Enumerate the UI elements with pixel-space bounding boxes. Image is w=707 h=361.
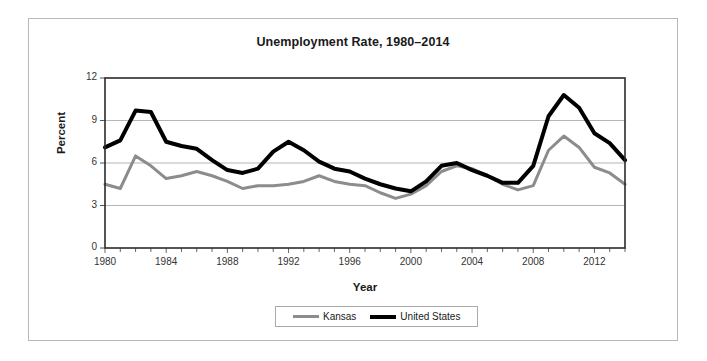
x-tick-label: 1992 bbox=[269, 256, 309, 267]
x-tick-label: 2004 bbox=[452, 256, 492, 267]
x-tick-label: 1980 bbox=[85, 256, 125, 267]
x-axis-title: Year bbox=[105, 281, 625, 293]
data-series bbox=[105, 95, 625, 198]
legend-item-united-states: United States bbox=[370, 311, 460, 322]
chart-legend: Kansas United States bbox=[275, 306, 478, 327]
x-tick-label: 1988 bbox=[207, 256, 247, 267]
axis-ticks bbox=[100, 78, 625, 253]
y-tick-label: 12 bbox=[71, 71, 97, 82]
legend-label-united-states: United States bbox=[400, 311, 460, 322]
gridlines bbox=[105, 121, 625, 206]
legend-line-swatch-kansas bbox=[293, 315, 319, 318]
plot-area bbox=[29, 19, 679, 342]
x-tick-label: 2000 bbox=[391, 256, 431, 267]
legend-item-kansas: Kansas bbox=[293, 311, 356, 322]
y-tick-label: 9 bbox=[71, 114, 97, 125]
y-tick-label: 6 bbox=[71, 156, 97, 167]
chart-figure-frame: Unemployment Rate, 1980–2014 Percent 036… bbox=[28, 18, 678, 341]
x-tick-label: 2012 bbox=[574, 256, 614, 267]
y-tick-label: 0 bbox=[71, 241, 97, 252]
legend-line-swatch-united-states bbox=[370, 315, 396, 319]
x-tick-label: 1996 bbox=[330, 256, 370, 267]
x-tick-label: 2008 bbox=[513, 256, 553, 267]
legend-label-kansas: Kansas bbox=[323, 311, 356, 322]
y-tick-label: 3 bbox=[71, 199, 97, 210]
x-tick-label: 1984 bbox=[146, 256, 186, 267]
